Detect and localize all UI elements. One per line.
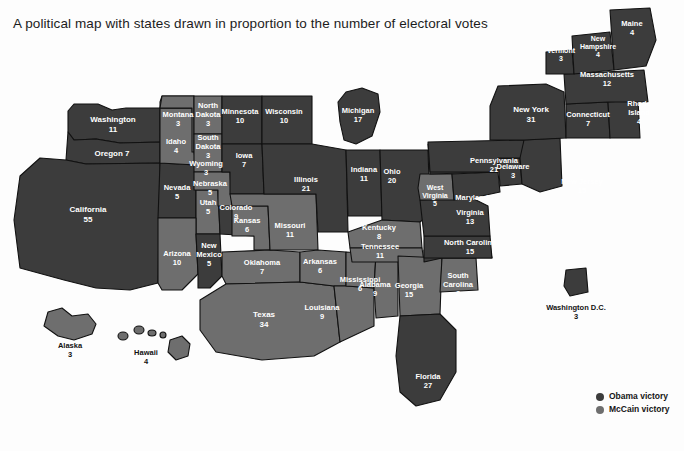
label-hawaii-votes: 4: [144, 357, 149, 366]
label-newjersey-votes: 15: [578, 186, 586, 195]
state-northdakota[interactable]: [194, 96, 222, 134]
state-texas[interactable]: [200, 282, 340, 360]
state-kansas[interactable]: [232, 206, 270, 250]
obama-circle-marker-icon: [596, 393, 604, 401]
legend-item-mccain[interactable]: McCain victory: [596, 403, 669, 416]
state-utah[interactable]: [196, 190, 220, 234]
state-maryland[interactable]: [452, 172, 500, 200]
state-newhampshire[interactable]: [572, 32, 614, 74]
state-vermont[interactable]: [546, 50, 574, 74]
state-georgia[interactable]: [398, 256, 442, 316]
state-california[interactable]: [14, 158, 160, 290]
state-rhodeisland[interactable]: [608, 100, 640, 138]
state-kentucky[interactable]: [348, 220, 422, 248]
state-washington[interactable]: [68, 104, 160, 143]
state-delaware[interactable]: [498, 158, 522, 186]
label-washington-dc: Washington D.C.: [546, 303, 606, 312]
state-alabama[interactable]: [374, 254, 398, 318]
label-newjersey: New Jersey: [561, 177, 603, 186]
legend-label-mccain: McCain victory: [609, 405, 669, 414]
state-connecticut[interactable]: [566, 102, 610, 138]
state-massachusetts[interactable]: [564, 70, 648, 104]
state-oklahoma[interactable]: [222, 250, 300, 284]
label-hawaii: Hawaii: [134, 348, 158, 357]
state-minnesota[interactable]: [222, 96, 262, 144]
state-virginia[interactable]: [420, 198, 490, 236]
state-southdakota[interactable]: [194, 134, 222, 172]
state-louisiana[interactable]: [334, 286, 374, 342]
state-wisconsin[interactable]: [262, 96, 312, 144]
state-arkansas[interactable]: [300, 250, 346, 286]
legend-item-obama[interactable]: Obama victory: [596, 390, 669, 403]
state-florida[interactable]: [396, 314, 456, 406]
label-alaska-votes: 3: [68, 350, 72, 359]
electoral-cartogram: Washington 11 Oregon 7 California 55 Nev…: [0, 0, 684, 451]
state-idaho[interactable]: [160, 108, 196, 165]
cartogram-svg: Washington 11 Oregon 7 California 55 Nev…: [0, 0, 684, 451]
state-hawaii-island-5[interactable]: [168, 336, 190, 360]
state-westvirginia[interactable]: [418, 174, 454, 200]
state-newjersey[interactable]: [520, 138, 562, 192]
state-indiana[interactable]: [346, 150, 382, 216]
state-northcarolina-body[interactable]: [424, 236, 492, 258]
state-hawaii-island-1[interactable]: [118, 332, 128, 340]
label-alaska: Alaska: [58, 341, 83, 350]
state-nevada[interactable]: [158, 163, 196, 218]
state-hawaii-island-2[interactable]: [134, 326, 144, 334]
district-of-columbia[interactable]: [564, 268, 588, 296]
state-hawaii-island-3[interactable]: [148, 330, 156, 336]
state-southcarolina[interactable]: [440, 258, 478, 292]
map-legend: Obama victory McCain victory: [596, 390, 669, 416]
state-newyork[interactable]: [490, 84, 566, 140]
state-maine[interactable]: [610, 8, 656, 70]
state-michigan[interactable]: [338, 88, 380, 144]
state-hawaii-island-4[interactable]: [160, 332, 166, 338]
state-alaska[interactable]: [44, 308, 96, 340]
legend-label-obama: Obama victory: [609, 392, 668, 401]
state-newmexico[interactable]: [196, 234, 222, 288]
state-arizona[interactable]: [158, 218, 198, 290]
mccain-circle-marker-icon: [596, 406, 604, 414]
label-washington-dc-votes: 3: [574, 312, 578, 321]
